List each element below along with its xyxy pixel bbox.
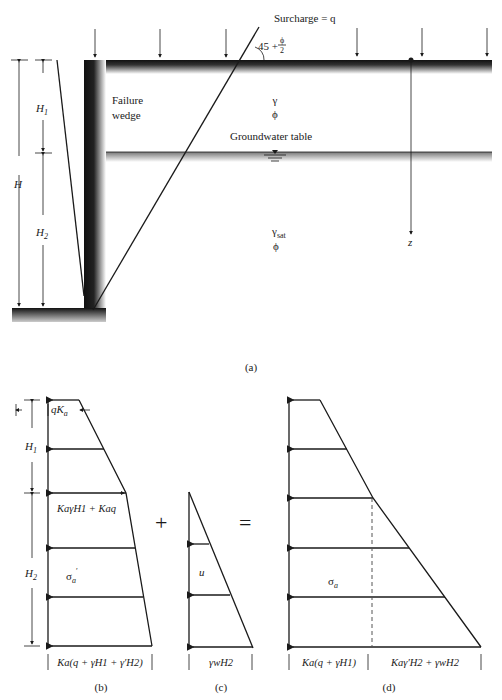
ground-surface — [85, 60, 492, 74]
angle-numerator: ϕ — [280, 36, 284, 45]
wall-pressure-line — [57, 60, 84, 296]
surcharge-arrows — [95, 28, 487, 57]
b-stress-label: σa′ — [66, 567, 78, 585]
b-mid-label: KaγH1 + Kaq — [56, 503, 116, 514]
angle-denominator: 2 — [280, 46, 284, 55]
d-bottom-right-label: Kaγ′H2 + γwH2 — [390, 657, 460, 668]
failure-wedge-label-line2: wedge — [112, 109, 141, 121]
b-H1-label: H1 — [24, 440, 37, 455]
retaining-wall-stem — [84, 60, 106, 318]
plus-operator: + — [155, 510, 167, 535]
caption-a: (a) — [245, 361, 258, 374]
lateral-earth-pressure-diagram: Surcharge = q 45 + ϕ 2 Failure wedge γ ϕ… — [0, 0, 502, 700]
d-stress-envelope — [320, 400, 481, 647]
b-bottom-label: Ka(q + γH1 + γ′H2) — [56, 657, 143, 669]
caption-b: (b) — [95, 681, 108, 694]
lower-soil-phi: ϕ — [273, 240, 279, 252]
failure-angle-label: 45 + — [258, 40, 278, 52]
groundwater-table-label: Groundwater table — [230, 130, 312, 142]
upper-soil-gamma: γ — [272, 94, 278, 106]
dimension-H1-label: H1 — [35, 102, 48, 117]
surcharge-label: Surcharge = q — [274, 12, 336, 24]
figure-b-effective-stress-diagram: qKa KaγH1 + Kaq σa′ H1 H2 Ka(q + γH1 + γ… — [16, 400, 152, 694]
d-bottom-left-label: Ka(q + γH1) — [301, 657, 356, 669]
depth-axis-label: z — [407, 236, 413, 248]
dimension-H2-label: H2 — [35, 226, 48, 241]
stress-envelope — [79, 400, 152, 646]
caption-c: (c) — [215, 681, 228, 694]
qKa-label: qKa — [51, 403, 68, 418]
b-H2-label: H2 — [24, 567, 37, 582]
equals-operator: = — [239, 510, 251, 535]
figure-d-total-active-pressure: σa Ka(q + γH1) Kaγ′H2 + γwH2 (d) — [289, 400, 481, 694]
groundwater-band — [92, 152, 492, 162]
dimension-H-label: H — [13, 178, 23, 190]
caption-d: (d) — [383, 681, 396, 694]
lower-soil-gamma: γsat — [271, 225, 287, 240]
failure-wedge-label-line1: Failure — [112, 94, 143, 106]
upper-soil-phi: ϕ — [272, 108, 278, 120]
d-stress-label: σa — [328, 575, 338, 590]
c-bottom-label: γwH2 — [209, 657, 234, 668]
c-stress-label: u — [199, 566, 205, 578]
retaining-wall-base — [12, 308, 106, 322]
figure-a-retaining-wall: Surcharge = q 45 + ϕ 2 Failure wedge γ ϕ… — [11, 12, 492, 374]
